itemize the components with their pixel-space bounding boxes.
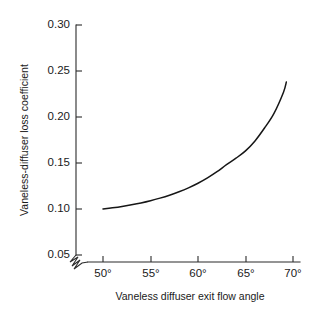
y-tick-marks — [76, 25, 82, 255]
x-tick-labels: 50° 55° 60° 65° 70° — [94, 267, 301, 279]
x-tick-label-65: 65° — [237, 267, 254, 279]
y-axis-title: Vaneless-diffuser loss coefficient — [18, 64, 30, 216]
chart-plot-svg: 0.30 0.25 0.20 0.15 0.10 0.05 50° 55° 60… — [0, 0, 317, 320]
y-tick-label-030: 0.30 — [48, 18, 70, 30]
x-tick-marks — [103, 256, 293, 262]
axis-break-zigzag-icon — [70, 255, 88, 269]
x-tick-label-60: 60° — [189, 267, 206, 279]
x-tick-label-55: 55° — [142, 267, 159, 279]
x-tick-label-50: 50° — [94, 267, 111, 279]
chart-container: 0.30 0.25 0.20 0.15 0.10 0.05 50° 55° 60… — [0, 0, 317, 320]
y-tick-label-010: 0.10 — [48, 202, 70, 214]
y-tick-label-020: 0.20 — [48, 110, 70, 122]
x-tick-label-70: 70° — [284, 267, 301, 279]
y-tick-label-005: 0.05 — [48, 248, 70, 260]
x-axis-title: Vaneless diffuser exit flow angle — [115, 290, 264, 302]
data-curve-line — [103, 82, 286, 209]
y-tick-label-015: 0.15 — [48, 156, 70, 168]
y-tick-label-025: 0.25 — [48, 64, 70, 76]
y-tick-labels: 0.30 0.25 0.20 0.15 0.10 0.05 — [48, 18, 70, 260]
